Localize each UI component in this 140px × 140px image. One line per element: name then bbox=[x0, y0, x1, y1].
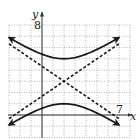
x-axis-label: x bbox=[130, 111, 136, 122]
hyperbola-graph bbox=[0, 0, 140, 140]
axes bbox=[8, 12, 132, 138]
y-tick-label-8: 8 bbox=[34, 20, 41, 31]
x-tick-label-7: 7 bbox=[116, 104, 123, 115]
